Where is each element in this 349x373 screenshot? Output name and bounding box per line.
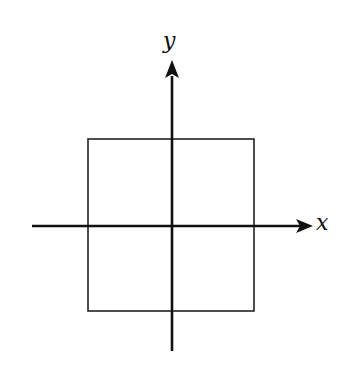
x-axis-label: x bbox=[316, 212, 328, 234]
y-axis-label: y bbox=[163, 30, 175, 52]
y-axis-arrow-icon bbox=[165, 60, 179, 78]
diagram-canvas bbox=[0, 0, 349, 373]
